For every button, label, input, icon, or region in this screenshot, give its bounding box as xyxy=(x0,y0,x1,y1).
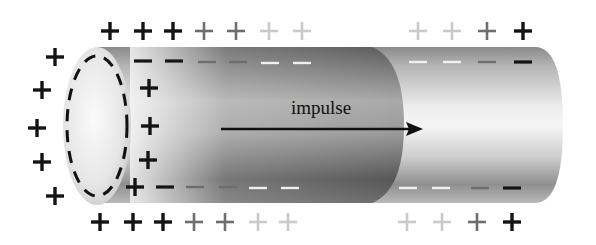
positive-charge-outer-left xyxy=(28,119,46,137)
positive-charge-outer-bottom xyxy=(433,213,451,231)
positive-charge-outer-bottom xyxy=(185,213,203,231)
positive-charge-outer-top xyxy=(478,22,496,40)
positive-charge-outer-bottom xyxy=(216,213,234,231)
positive-charge-outer-bottom xyxy=(154,213,172,231)
diagram-canvas: impulse xyxy=(0,0,596,245)
positive-charge-outer-top xyxy=(409,22,427,40)
axon-impulse-diagram: impulse xyxy=(0,0,596,245)
positive-charge-outer-left xyxy=(33,153,51,171)
positive-charge-outer-bottom xyxy=(468,213,486,231)
positive-charge-outer-left xyxy=(46,48,64,66)
positive-charge-outer-bottom xyxy=(503,213,521,231)
positive-charge-outer-bottom xyxy=(249,213,267,231)
positive-charge-outer-bottom xyxy=(279,213,297,231)
positive-charge-outer-top xyxy=(134,22,152,40)
positive-charge-outer-bottom xyxy=(91,213,109,231)
positive-charge-outer-top xyxy=(293,22,311,40)
positive-charge-outer-bottom xyxy=(124,213,142,231)
impulse-label: impulse xyxy=(291,97,351,118)
depolarized-region xyxy=(130,47,404,203)
positive-charge-outer-top xyxy=(260,22,278,40)
positive-charge-outer-top xyxy=(195,22,213,40)
positive-charge-outer-top xyxy=(101,22,119,40)
positive-charge-outer-top xyxy=(164,22,182,40)
axon-end-cap xyxy=(63,47,131,205)
positive-charge-outer-top xyxy=(443,22,461,40)
positive-charge-outer-left xyxy=(33,81,51,99)
positive-charge-outer-top xyxy=(514,22,532,40)
positive-charge-outer-top xyxy=(227,22,245,40)
positive-charge-outer-left xyxy=(46,187,64,205)
positive-charge-outer-bottom xyxy=(398,213,416,231)
